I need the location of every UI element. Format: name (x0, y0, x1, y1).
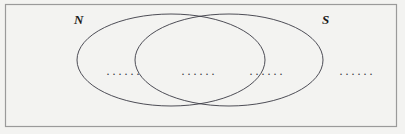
set-ellipse-s (135, 14, 323, 106)
set-ellipse-n (77, 14, 265, 106)
region-dots-intersection: ······ (181, 68, 217, 80)
universal-set-rectangle (6, 5, 397, 127)
region-dots-s-only: ······ (249, 68, 285, 80)
venn-diagram-figure: N S ······ ······ ······ ······ (0, 0, 405, 134)
region-dots-n-only: ······ (106, 68, 142, 80)
set-label-s: S (322, 13, 329, 26)
set-label-n: N (74, 13, 84, 26)
region-dots-outside: ······ (339, 68, 375, 80)
